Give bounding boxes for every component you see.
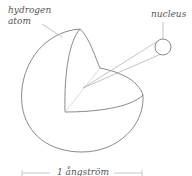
atom-label-line1: hydrogen <box>8 5 51 15</box>
scale-label: 1 ångström <box>57 167 109 176</box>
nucleus-ray-bottom <box>83 54 161 88</box>
nucleus-ray-top <box>83 41 158 88</box>
atom-illustration <box>0 0 192 176</box>
nucleus-label: nucleus <box>151 9 186 19</box>
hydrogen-atom-diagram: hydrogen atom nucleus 1 ångström <box>0 0 192 176</box>
inner-radius-line <box>65 68 100 112</box>
cutaway-edge-left <box>65 29 80 112</box>
nucleus-circle <box>155 39 171 55</box>
atom-label-line2: atom <box>8 16 31 26</box>
atom-leader-line <box>42 24 62 37</box>
